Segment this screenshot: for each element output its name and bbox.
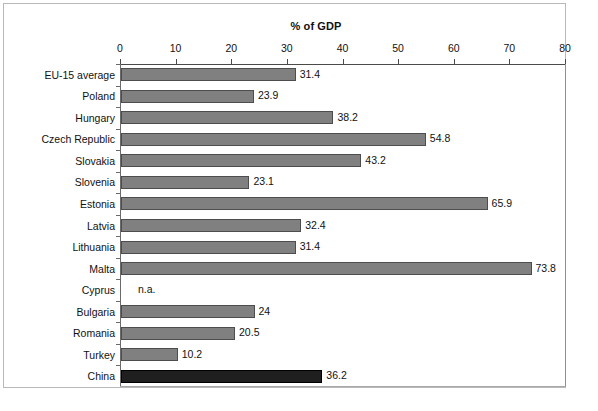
bar [121, 262, 532, 275]
category-label: Cyprus [82, 284, 115, 296]
x-tick-label: 0 [117, 42, 123, 54]
y-tick [116, 279, 120, 280]
category-label: Latvia [87, 220, 115, 232]
chart-title-text: % of GDP [291, 20, 342, 32]
category-label: Lithuania [72, 241, 115, 253]
y-tick [116, 86, 120, 87]
x-tick-label: 70 [504, 42, 516, 54]
category-label: Romania [73, 327, 115, 339]
bar-value-label: 73.8 [536, 262, 556, 274]
bar [121, 241, 296, 254]
plot-area: 01020304050607080 31.423.938.254.843.223… [120, 64, 565, 387]
y-tick [116, 107, 120, 108]
bar-value-label: 43.2 [365, 154, 385, 166]
missing-value-label: n.a. [138, 283, 156, 295]
bar [121, 68, 296, 81]
x-tick [509, 59, 510, 64]
category-label: Hungary [75, 112, 115, 124]
bar-value-label: 65.9 [492, 197, 512, 209]
right-spine [565, 64, 566, 387]
y-tick [116, 236, 120, 237]
bar [121, 219, 301, 232]
bar [121, 305, 255, 318]
category-label: Turkey [83, 349, 115, 361]
bar-value-label: 36.2 [326, 369, 346, 381]
bar-value-label: 24 [259, 305, 271, 317]
y-tick [116, 150, 120, 151]
x-tick-label: 80 [559, 42, 571, 54]
x-tick-label: 20 [225, 42, 237, 54]
y-tick [116, 322, 120, 323]
y-tick [116, 64, 120, 65]
chart-title: % of GDP [0, 20, 566, 32]
y-tick [116, 193, 120, 194]
x-tick [398, 59, 399, 64]
x-tick [176, 59, 177, 64]
bar [121, 90, 254, 103]
y-tick [116, 344, 120, 345]
category-label: Slovakia [75, 155, 115, 167]
category-label: Bulgaria [76, 306, 115, 318]
category-label: China [88, 370, 115, 382]
bar [121, 176, 249, 189]
category-axis-labels: EU-15 averagePolandHungaryCzech Republic… [0, 64, 115, 387]
x-tick-label: 10 [170, 42, 182, 54]
y-tick [116, 129, 120, 130]
bar-value-label: 54.8 [430, 132, 450, 144]
bar [121, 111, 333, 124]
category-label: Poland [82, 90, 115, 102]
bar-value-label: 31.4 [300, 240, 320, 252]
x-tick [120, 59, 121, 64]
category-label: Czech Republic [41, 133, 115, 145]
bar-value-label: 38.2 [337, 111, 357, 123]
category-label: Malta [89, 263, 115, 275]
x-tick-label: 50 [392, 42, 404, 54]
category-label: EU-15 average [44, 69, 115, 81]
x-tick-label: 30 [281, 42, 293, 54]
y-tick [116, 215, 120, 216]
x-tick [231, 59, 232, 64]
bottom-rule [120, 386, 566, 387]
bar [121, 327, 235, 340]
bar-value-label: 23.9 [258, 89, 278, 101]
y-tick [116, 301, 120, 302]
bar-value-label: 20.5 [239, 326, 259, 338]
y-tick [116, 172, 120, 173]
x-tick [454, 59, 455, 64]
x-tick-label: 40 [337, 42, 349, 54]
x-tick [287, 59, 288, 64]
bar-value-label: 10.2 [182, 348, 202, 360]
bar [121, 197, 488, 210]
x-tick [343, 59, 344, 64]
x-axis-line [120, 64, 565, 65]
bar [121, 133, 426, 146]
bar [121, 154, 361, 167]
category-label: Slovenia [75, 176, 115, 188]
x-tick-label: 60 [448, 42, 460, 54]
bar-value-label: 32.4 [305, 219, 325, 231]
bar-value-label: 23.1 [253, 175, 273, 187]
bar-value-label: 31.4 [300, 68, 320, 80]
category-label: Estonia [80, 198, 115, 210]
bar [121, 370, 322, 383]
y-tick [116, 365, 120, 366]
x-tick [565, 59, 566, 64]
bar [121, 348, 178, 361]
y-tick [116, 258, 120, 259]
